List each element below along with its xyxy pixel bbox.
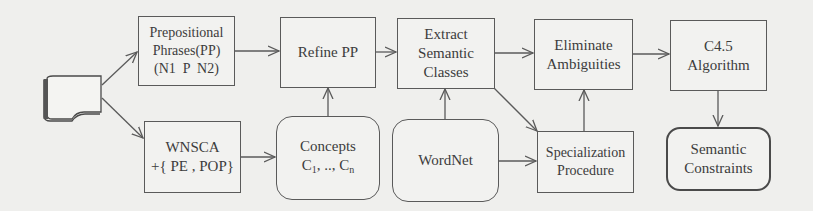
concept-cn: C <box>339 157 349 173</box>
flowchart-canvas: Prepositional Phrases(PP) (N1 P N2) Refi… <box>0 0 813 211</box>
special-line-2: Procedure <box>546 162 625 180</box>
constraints-line-2: Constraints <box>684 159 752 178</box>
eliminate-line-2: Ambiguities <box>546 55 620 74</box>
document-icon <box>44 76 102 121</box>
concept-c1: C <box>302 157 312 173</box>
wnsca-line-1: WNSCA <box>151 138 234 157</box>
eliminate-ambiguities-box: Eliminate Ambiguities <box>534 19 633 90</box>
edge-source-to-wnsca <box>102 98 143 138</box>
constraints-line-1: Semantic <box>684 140 752 159</box>
edge-extract-to-special <box>494 88 537 131</box>
c45-algorithm-box: C4.5 Algorithm <box>670 20 767 91</box>
pp-line-2: Phrases(PP) <box>150 42 224 60</box>
prepositional-phrases-box: Prepositional Phrases(PP) (N1 P N2) <box>138 16 235 86</box>
concepts-box: Concepts C1, .., Cn <box>276 116 380 200</box>
concept-cn-subscript: n <box>349 164 354 175</box>
extract-line-2: Semantic <box>418 44 474 63</box>
eliminate-line-1: Eliminate <box>546 36 620 55</box>
concepts-range: C1, .., Cn <box>300 156 356 179</box>
pp-line-3: (N1 P N2) <box>150 60 224 78</box>
wnsca-box: WNSCA +{ PE , POP} <box>144 121 241 193</box>
wordnet-label: WordNet <box>418 151 473 170</box>
wnsca-line-2: +{ PE , POP} <box>151 157 234 176</box>
wordnet-box: WordNet <box>392 119 499 202</box>
semantic-constraints-box: Semantic Constraints <box>666 127 771 191</box>
c45-line-1: C4.5 <box>687 37 750 56</box>
c45-line-2: Algorithm <box>687 56 750 75</box>
extract-line-3: Classes <box>418 63 474 82</box>
extract-line-1: Extract <box>418 25 474 44</box>
refine-label: Refine PP <box>298 43 358 62</box>
special-line-1: Specialization <box>546 144 625 162</box>
specialization-procedure-box: Specialization Procedure <box>537 131 634 193</box>
edge-source-to-pp <box>102 52 137 85</box>
extract-semantic-classes-box: Extract Semantic Classes <box>397 18 495 89</box>
concepts-title: Concepts <box>300 137 356 156</box>
pp-line-1: Prepositional <box>150 24 224 42</box>
refine-pp-box: Refine PP <box>280 17 376 88</box>
concepts-ellipsis: , .., <box>317 157 340 173</box>
